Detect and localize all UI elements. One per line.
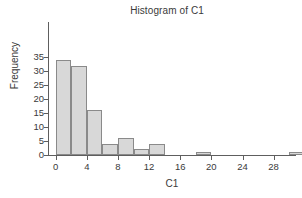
histogram-bar [71,66,87,155]
y-tick [44,113,48,114]
y-tick-label: 25 [4,80,44,90]
x-tick-label: 28 [262,162,286,172]
x-tick [274,156,275,160]
y-tick-label: 15 [4,108,44,118]
y-tick-label: 10 [4,122,44,132]
x-tick [243,156,244,160]
histogram-bar [87,110,103,155]
x-tick [118,156,119,160]
y-tick-label: 30 [4,66,44,76]
histogram-bar [149,144,165,155]
x-tick [180,156,181,160]
histogram-bar [134,149,150,155]
y-tick-label: 20 [4,94,44,104]
y-tick [44,57,48,58]
y-tick [44,155,48,156]
x-tick-label: 0 [44,162,68,172]
x-tick [87,156,88,160]
x-tick-label: 16 [168,162,192,172]
y-tick [44,99,48,100]
x-tick-label: 8 [106,162,130,172]
x-tick-label: 20 [199,162,223,172]
y-axis-line [48,22,49,156]
y-tick [44,127,48,128]
y-tick [44,71,48,72]
histogram-bar [289,152,302,155]
x-tick-label: 24 [231,162,255,172]
y-tick-label: 35 [4,52,44,62]
x-tick [211,156,212,160]
histogram-figure: Histogram of C1 Frequency C1 05101520253… [0,0,302,198]
histogram-bar [56,60,72,155]
x-axis-line [48,155,296,156]
y-tick-label: 5 [4,136,44,146]
y-tick [44,85,48,86]
histogram-bar [118,138,134,155]
x-tick [56,156,57,160]
x-tick-label: 4 [75,162,99,172]
plot-area: 05101520253035 0481216202428 [0,0,302,198]
x-tick-label: 12 [137,162,161,172]
histogram-bar [102,144,118,155]
histogram-bar [196,152,212,155]
x-tick [149,156,150,160]
y-tick-label: 0 [4,150,44,160]
y-tick [44,141,48,142]
